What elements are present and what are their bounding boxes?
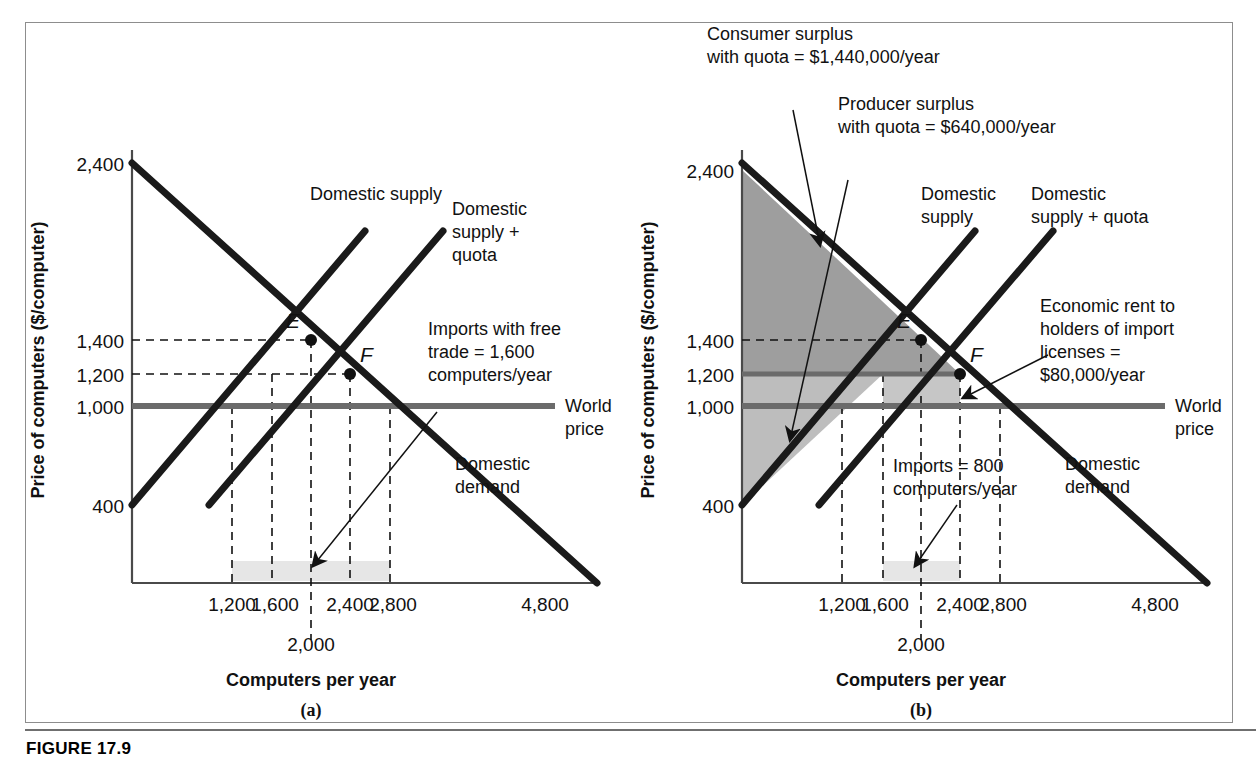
panel-b-xtick-1200: 1,200 (818, 594, 866, 615)
panel-b-label-domestic-demand-1: Domestic (1065, 454, 1140, 474)
panel-b-label-producer-surplus-1: Producer surplus (838, 94, 974, 114)
panel-b-y-axis-title: Price of computers ($/computer) (638, 221, 658, 498)
panel-b-label-world-price-2: price (1175, 419, 1214, 439)
panel-b-ytick-1000: 1,000 (686, 397, 734, 418)
panel-b-label-consumer-surplus-1: Consumer surplus (707, 24, 853, 44)
panel-b-x-axis-title: Computers per year (836, 670, 1006, 690)
panel-b-point-f-dot (954, 368, 966, 380)
panel-b-label-world-price-1: World (1175, 396, 1222, 416)
figure-root: 2,400 1,400 1,200 1,000 400 1,200 1,600 … (0, 0, 1256, 769)
panel-b-label-consumer-surplus-2: with quota = $1,440,000/year (706, 47, 940, 67)
panel-b-xtick-2400: 2,400 (936, 594, 984, 615)
panel-b-label-econ-rent-3: licenses = (1040, 342, 1121, 362)
panel-b-label-econ-rent-1: Economic rent to (1040, 296, 1175, 316)
panel-b-ytick-1200: 1,200 (686, 365, 734, 386)
panel-b-xtick-2800: 2,800 (979, 594, 1027, 615)
panel-b-point-e-dot (915, 334, 927, 346)
panel-b-label-dsq-2: supply + quota (1031, 207, 1150, 227)
panel-b-ytick-2400: 2,400 (686, 161, 734, 182)
figure-caption: FIGURE 17.9 (26, 739, 131, 759)
panel-b-xtick-4800: 4,800 (1131, 594, 1179, 615)
panel-b: 2,400 1,400 1,200 1,000 400 1,200 1,600 … (0, 0, 1256, 720)
panel-b-label-imports-2: computers/year (893, 479, 1017, 499)
panel-b-label-econ-rent-4: $80,000/year (1040, 365, 1145, 385)
panel-b-label-domestic-demand-2: demand (1065, 477, 1130, 497)
panel-b-label-producer-surplus-2: with quota = $640,000/year (837, 117, 1056, 137)
panel-b-ytick-400: 400 (702, 496, 734, 517)
panel-b-label-domestic-supply-1: Domestic (921, 184, 996, 204)
panel-b-label-imports-1: Imports = 800 (893, 456, 1004, 476)
panel-b-point-e-label: E (897, 309, 912, 332)
panel-b-label-domestic-supply-2: supply (921, 207, 973, 227)
panel-b-xtick-2000: 2,000 (897, 634, 945, 655)
panel-b-ytick-1400: 1,400 (686, 331, 734, 352)
panel-b-xtick-1600: 1,600 (861, 594, 909, 615)
panel-b-label-dsq-1: Domestic (1031, 184, 1106, 204)
panel-b-label-econ-rent-2: holders of import (1040, 319, 1174, 339)
caption-rule (25, 729, 1256, 731)
panel-b-panel-label: (b) (910, 700, 932, 721)
panel-b-point-f-label: F (970, 343, 984, 366)
